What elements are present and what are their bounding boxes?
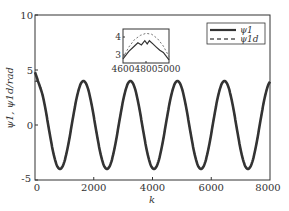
legend: ψ1 ψ1d	[207, 23, 265, 44]
series-line-psi1d	[35, 81, 270, 169]
x-tick-label: 8000	[255, 182, 280, 193]
x-tick-label: 4000	[140, 182, 165, 193]
series-line-psi1	[35, 72, 270, 169]
inset-x-tick-label: 5000	[158, 64, 181, 74]
y-tick-label: 10	[20, 10, 33, 21]
y-axis-title: ψ1, ψ1d/rad	[4, 67, 15, 129]
legend-label: ψ1d	[240, 34, 259, 44]
x-tick-label: 6000	[199, 182, 224, 193]
x-axis-title: k	[149, 194, 155, 205]
x-tick-label: 2000	[81, 182, 106, 193]
inset-y-tick-label: 4	[115, 32, 121, 42]
y-tick-label: -5	[21, 173, 31, 184]
plot-area	[35, 72, 270, 169]
inset-y-tick-label: 3	[115, 50, 121, 60]
inset-plot: 4 3 4600 4800 5000	[112, 29, 181, 74]
x-axis: 0 2000 4000 6000 8000	[34, 177, 281, 193]
y-tick-label: 5	[27, 65, 33, 76]
x-tick-label: 0	[34, 182, 40, 193]
inset-x-tick-label: 4600	[112, 64, 135, 74]
y-tick-label: 0	[27, 120, 33, 131]
line-chart: 10 5 0 -5 0 2000 4000 6000 8000 k ψ1, ψ1…	[0, 0, 289, 211]
inset-x-tick-label: 4800	[135, 64, 158, 74]
